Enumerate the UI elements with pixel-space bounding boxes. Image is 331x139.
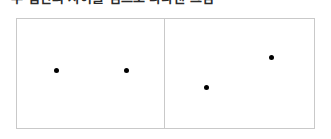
dot-right-1	[204, 85, 209, 90]
dot-right-2	[269, 55, 274, 60]
right-panel	[165, 19, 314, 128]
dot-left-1	[54, 68, 59, 73]
left-panel	[17, 19, 164, 128]
dot-left-2	[124, 68, 129, 73]
two-panel-dot-diagram	[16, 18, 315, 129]
figure-caption-text: 두 집단의 차이를 점으로 나타낸 그림	[11, 0, 214, 5]
figure-caption: 두 집단의 차이를 점으로 나타낸 그림	[0, 0, 331, 9]
